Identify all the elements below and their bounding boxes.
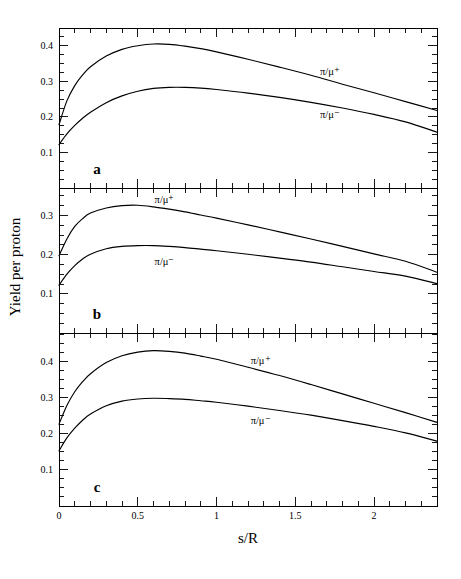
y-axis-title: Yield per proton (7, 217, 23, 316)
y-tick-label: 0.2 (41, 249, 54, 260)
x-axis-title: s/R (238, 530, 258, 546)
panel-c: 0.10.20.30.4π/μ⁺π/μ⁻c (41, 333, 438, 506)
y-tick-label: 0.1 (41, 464, 54, 475)
y-tick-label: 0.3 (41, 392, 54, 403)
curve-pi/mu+ (59, 44, 437, 125)
y-tick-label: 0.1 (41, 147, 54, 158)
curve-label-pi/mu-: π/μ⁻ (320, 109, 340, 120)
panel-b: 0.10.20.3π/μ⁺π/μ⁻b (41, 188, 438, 333)
y-tick-label: 0.4 (41, 40, 54, 51)
curve-pi/mu- (59, 246, 437, 286)
panel-letter-b: b (93, 306, 101, 322)
y-tick-label: 0.2 (41, 111, 54, 122)
y-tick-label: 0.4 (41, 356, 54, 367)
curve-label-pi/mu-: π/μ⁻ (155, 256, 175, 267)
curve-pi/mu- (59, 87, 437, 144)
x-tick-label: 2 (372, 510, 377, 521)
x-tick-label: 1 (214, 510, 219, 521)
x-tick-label: 0 (57, 510, 62, 521)
curve-pi/mu+ (59, 205, 437, 272)
y-tick-label: 0.3 (41, 76, 54, 87)
curve-pi/mu+ (59, 351, 437, 425)
x-tick-label: 0.5 (132, 510, 145, 521)
x-tick-label: 1.5 (289, 510, 302, 521)
curve-label-pi/mu-: π/μ⁻ (251, 415, 271, 426)
y-tick-label: 0.2 (41, 428, 54, 439)
plot-frame (60, 29, 438, 507)
y-tick-label: 0.1 (41, 288, 54, 299)
panel-letter-a: a (93, 161, 101, 177)
curve-pi/mu- (59, 398, 437, 451)
panel-letter-c: c (94, 479, 101, 495)
figure-container: 0.10.20.30.4π/μ⁺π/μ⁻a0.10.20.3π/μ⁺π/μ⁻b0… (0, 0, 461, 579)
y-tick-label: 0.3 (41, 210, 54, 221)
multi-panel-line-chart: 0.10.20.30.4π/μ⁺π/μ⁻a0.10.20.3π/μ⁺π/μ⁻b0… (0, 0, 461, 579)
curve-label-pi/mu+: π/μ⁺ (155, 194, 175, 205)
curve-label-pi/mu+: π/μ⁺ (320, 66, 340, 77)
panel-a: 0.10.20.30.4π/μ⁺π/μ⁻a (41, 28, 438, 188)
curve-label-pi/mu+: π/μ⁺ (251, 355, 271, 366)
